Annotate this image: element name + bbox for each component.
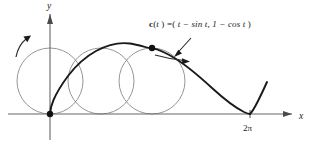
traced-point-dot bbox=[149, 45, 155, 51]
cycloid-arc-secondary bbox=[250, 82, 267, 114]
point-arrow-head bbox=[174, 50, 182, 57]
rotation-arrow-arc bbox=[16, 39, 27, 58]
y-axis-label: y bbox=[47, 2, 51, 12]
equation-components-close: ) bbox=[245, 19, 251, 29]
rolling-circles-group bbox=[17, 48, 185, 114]
curve-arrow-head bbox=[182, 58, 190, 64]
x-axis-arrowhead bbox=[283, 111, 292, 117]
rotation-arrow-head bbox=[23, 36, 31, 43]
axes-group bbox=[8, 14, 292, 140]
x-axis-label: x bbox=[299, 112, 303, 122]
cycloid-arc-primary bbox=[50, 43, 250, 114]
rolling-circle-2 bbox=[68, 48, 134, 114]
equation-component-x: t − sin t bbox=[178, 19, 208, 29]
equation-close-paren: ) bbox=[159, 19, 165, 29]
tick-label-2pi: 2π bbox=[243, 124, 252, 133]
parametric-equation-label: c(t ) =( t − sin t, 1 − cos t ) bbox=[149, 20, 251, 29]
origin-point-dot bbox=[47, 111, 53, 117]
y-axis-arrowhead bbox=[47, 14, 53, 24]
rotation-direction-arrow bbox=[16, 36, 31, 57]
cycloid-figure: y x 2π c(t ) =( t − sin t, 1 − cos t ) bbox=[0, 0, 317, 148]
equation-component-y: 1 − cos t bbox=[212, 19, 245, 29]
point-annotation-arrow bbox=[174, 38, 191, 57]
marked-points-group bbox=[47, 45, 155, 117]
